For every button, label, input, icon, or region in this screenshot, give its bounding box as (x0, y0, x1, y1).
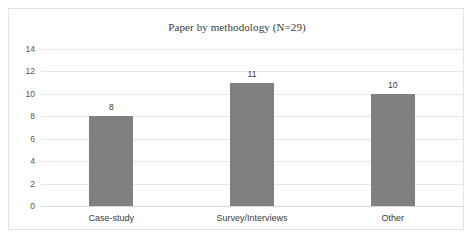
bar-group: 10 (322, 49, 463, 206)
axis-baseline (41, 206, 463, 207)
y-axis-tick-label: 8 (9, 111, 35, 121)
y-axis: 02468101214 (9, 49, 37, 206)
bar[interactable] (89, 116, 133, 206)
y-axis-tick-label: 12 (9, 66, 35, 76)
bar-group: 11 (182, 49, 323, 206)
x-axis-tick-label: Survey/Interviews (216, 213, 287, 223)
y-axis-tick-label: 6 (9, 134, 35, 144)
chart-title: Paper by methodology (N=29) (9, 21, 465, 33)
y-axis-tick-label: 2 (9, 179, 35, 189)
bar[interactable] (371, 94, 415, 206)
chart-container: Paper by methodology (N=29) 02468101214 … (8, 8, 464, 230)
y-axis-tick-label: 10 (9, 89, 35, 99)
y-axis-tick-label: 4 (9, 156, 35, 166)
x-axis: Case-studySurvey/InterviewsOther (41, 209, 463, 229)
y-axis-tick-label: 0 (9, 201, 35, 211)
bar-series: 81110 (41, 49, 463, 206)
y-axis-tick-label: 14 (9, 44, 35, 54)
bar-value-label: 10 (388, 80, 397, 90)
bar-group: 8 (41, 49, 182, 206)
bar-value-label: 8 (109, 102, 114, 112)
x-axis-tick-label: Case-study (89, 213, 135, 223)
bar-value-label: 11 (248, 69, 257, 79)
bar[interactable] (230, 83, 274, 206)
x-axis-tick-label: Other (381, 213, 404, 223)
